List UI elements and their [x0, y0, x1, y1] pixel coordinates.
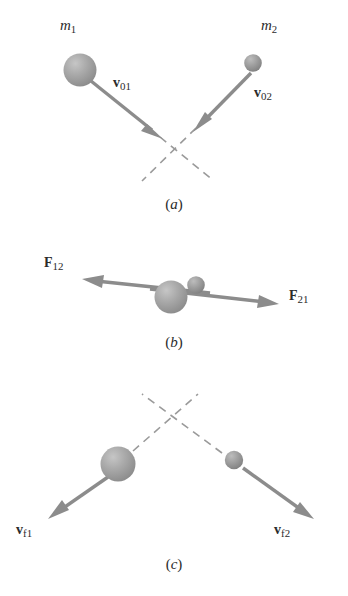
- vector-F12-label: F12: [44, 256, 63, 272]
- vector-F21-label: F21: [289, 289, 308, 305]
- mass-m1-sphere: [155, 281, 188, 314]
- panel-c: vf1 vf2 (c): [0, 368, 348, 596]
- panel-b: F12 F21 (b): [0, 228, 348, 368]
- vector-vf1: [48, 477, 108, 519]
- mass-m2-sphere: [244, 54, 262, 72]
- panel-c-caption: (c): [0, 556, 348, 573]
- vector-vf2: [243, 468, 314, 519]
- dashed-path-1: [133, 394, 198, 451]
- panel-b-caption: (b): [0, 334, 348, 351]
- mass-m1-sphere: [64, 54, 97, 87]
- collision-figure: m1 m2 v01 v02 (a) F12 F21 (b): [0, 0, 348, 596]
- vector-v02-label: v02: [254, 86, 272, 102]
- mass-m2-sphere: [225, 451, 243, 469]
- vector-v02: [193, 73, 251, 132]
- vector-v01-label: v01: [113, 76, 131, 92]
- mass-m2-sphere: [187, 276, 205, 294]
- vector-vf1-label: vf1: [16, 523, 32, 539]
- mass-m1-sphere: [101, 447, 136, 482]
- dashed-path-2: [142, 128, 196, 181]
- panel-a-graphic: [0, 0, 348, 228]
- dashed-path-2: [142, 394, 222, 453]
- panel-a: m1 m2 v01 v02 (a): [0, 0, 348, 228]
- dashed-path-1: [160, 137, 214, 181]
- mass-m1-label: m1: [60, 18, 76, 35]
- vector-vf2-label: vf2: [274, 523, 290, 539]
- panel-a-caption: (a): [0, 196, 348, 213]
- mass-m2-label: m2: [261, 18, 277, 35]
